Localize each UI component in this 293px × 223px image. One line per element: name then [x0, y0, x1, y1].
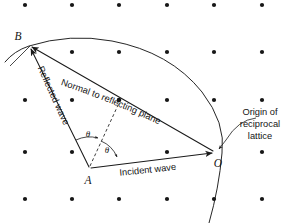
lattice-dot [70, 150, 74, 154]
lattice-dot [165, 3, 169, 7]
label-normal-to-reflecting-plane: Normal to reflecting plane [60, 77, 162, 126]
label-point-b: B [14, 30, 21, 42]
lattice-dot [23, 197, 27, 201]
diagram-canvas: B A O θ θ Normal to reflecting plane Ref… [0, 0, 293, 223]
origin-callout-line-2: reciprocal [240, 119, 280, 129]
origin-callout-line-3: lattice [248, 131, 272, 141]
dashed-bisector-line [90, 103, 119, 166]
lattice-dot [260, 150, 264, 154]
label-theta-lower: θ [105, 145, 110, 155]
sphere-tick-at-b [10, 46, 30, 66]
lattice-dot [165, 50, 169, 54]
lattice-dot [212, 98, 216, 102]
lattice-dot [212, 50, 216, 54]
lattice-dot [23, 98, 27, 102]
label-reflected-wave: Reflected wave [36, 64, 71, 126]
label-point-o: O [214, 157, 223, 169]
lattice-dot [23, 3, 27, 7]
lattice-dot [70, 197, 74, 201]
lattice-dot [165, 150, 169, 154]
lattice-dot [23, 150, 27, 154]
origin-callout-line-1: Origin of [242, 107, 278, 117]
lattice-dot [260, 3, 264, 7]
lattice-dot [260, 197, 264, 201]
lattice-dot [165, 197, 169, 201]
lattice-dot [260, 50, 264, 54]
lattice-dot [117, 197, 121, 201]
label-theta-upper: θ [86, 129, 91, 139]
lattice-dot [117, 50, 121, 54]
label-incident-wave: Incident wave [119, 162, 177, 178]
label-incident-wave-text: Incident wave [119, 162, 177, 178]
lattice-dot [260, 98, 264, 102]
origin-of-reciprocal-lattice-callout: Origin of reciprocal lattice [240, 107, 280, 141]
ewald-sphere-figure: B A O θ θ Normal to reflecting plane Ref… [0, 0, 293, 223]
label-reflected-wave-text: Reflected wave [36, 64, 71, 126]
lattice-dot [70, 98, 74, 102]
label-normal-to-reflecting-plane-text: Normal to reflecting plane [60, 77, 162, 126]
label-point-a: A [83, 174, 92, 186]
lattice-dot [70, 50, 74, 54]
lattice-dot [212, 3, 216, 7]
lattice-dot [117, 3, 121, 7]
lattice-dot [165, 98, 169, 102]
lattice-dot [70, 3, 74, 7]
ewald-sphere-arc [5, 38, 223, 223]
